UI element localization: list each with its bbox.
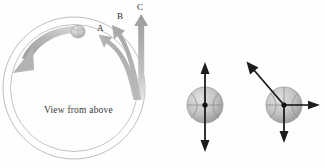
counterclockwise-motion-arrow [13, 26, 75, 73]
ball-diagram-1 [187, 62, 223, 152]
center-dot-1 [202, 102, 207, 107]
figure-canvas [0, 0, 325, 168]
circular-track-group [3, 14, 152, 159]
path-label-a: A [97, 24, 104, 33]
path-label-c: C [137, 3, 143, 12]
physics-figure: A B C View from above [0, 0, 325, 168]
center-dot-2 [281, 102, 286, 107]
vector-up-left-2 [247, 62, 285, 106]
path-label-b: B [117, 12, 123, 21]
ball-on-track [71, 25, 85, 38]
ball-diagram-2 [247, 62, 321, 144]
view-from-above-caption: View from above [44, 106, 113, 116]
